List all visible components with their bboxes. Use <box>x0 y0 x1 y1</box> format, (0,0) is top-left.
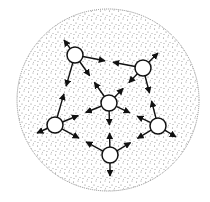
node-D <box>47 117 63 133</box>
node-F <box>102 147 118 163</box>
network-diagram <box>0 0 210 202</box>
node-E <box>150 118 166 134</box>
node-A <box>67 47 83 63</box>
node-B <box>135 60 151 76</box>
diagram-canvas <box>0 0 210 202</box>
node-C <box>101 95 117 111</box>
